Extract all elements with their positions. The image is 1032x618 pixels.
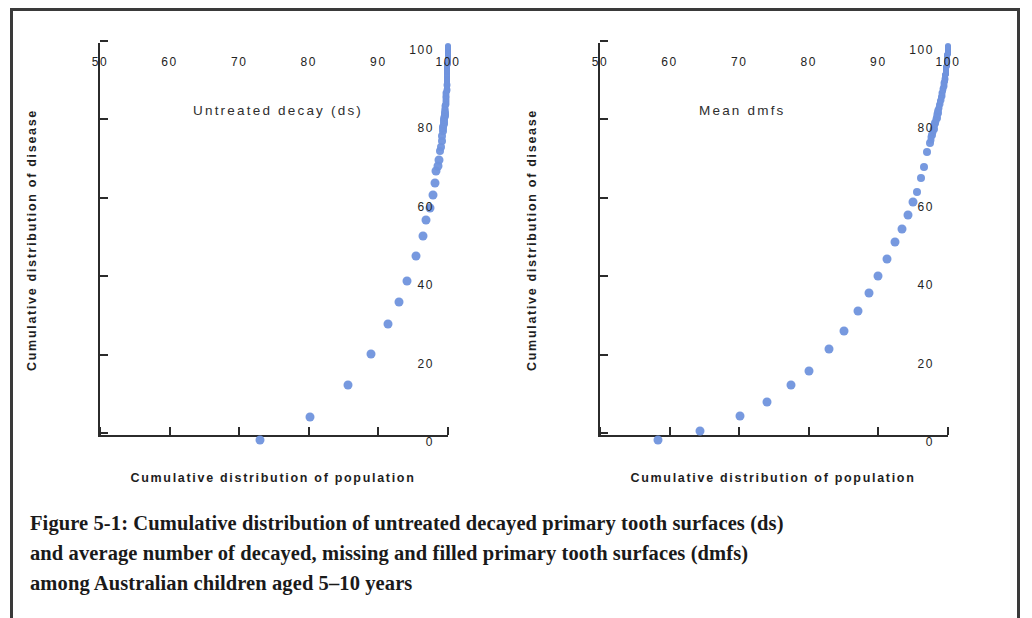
x-tick-label-left: 100 — [436, 55, 461, 69]
x-tick-label-left: 80 — [301, 55, 318, 69]
data-point — [923, 148, 931, 156]
x-tick-right — [669, 427, 671, 435]
chart-panel-mean-dmfs: Cumulative distribution of disease 50607… — [513, 11, 1013, 491]
x-tick-left — [308, 427, 310, 435]
data-point — [898, 225, 907, 234]
x-axis-title-left: Cumulative distribution of population — [98, 471, 448, 485]
data-point — [428, 190, 437, 199]
data-point — [763, 397, 772, 406]
y-axis-title-right: Cumulative distribution of disease — [523, 43, 541, 437]
x-tick-right — [738, 427, 740, 435]
panel-title-left: Untreated decay (ds) — [193, 103, 363, 118]
x-tick-label-left: 60 — [161, 55, 178, 69]
x-tick-right — [947, 427, 949, 435]
data-point — [891, 238, 900, 247]
x-tick-right — [808, 427, 810, 435]
data-point — [920, 163, 928, 171]
x-tick-label-right: 100 — [936, 55, 961, 69]
y-tick-left — [100, 40, 108, 42]
data-point — [654, 435, 663, 444]
data-point — [256, 435, 265, 444]
x-tick-label-left: 90 — [370, 55, 387, 69]
data-point — [735, 411, 744, 420]
data-point — [864, 288, 873, 297]
panel-title-right: Mean dmfs — [699, 103, 786, 118]
y-tick-left — [100, 432, 108, 434]
data-point — [394, 297, 403, 306]
y-tick-right — [600, 197, 608, 199]
y-tick-left — [100, 275, 108, 277]
data-point — [402, 276, 411, 285]
x-tick-left — [377, 427, 379, 435]
y-tick-left — [100, 118, 108, 120]
caption-line-3: among Australian children aged 5–10 year… — [30, 568, 990, 598]
caption-line-2: and average number of decayed, missing a… — [30, 538, 990, 568]
data-point — [422, 215, 431, 224]
data-point — [874, 272, 883, 281]
figure-plots-area: Cumulative distribution of disease 50607… — [13, 11, 1017, 491]
data-point — [695, 426, 704, 435]
data-point — [917, 174, 925, 182]
x-tick-left — [169, 427, 171, 435]
data-point — [945, 44, 951, 50]
y-tick-right — [600, 354, 608, 356]
y-tick-right — [600, 40, 608, 42]
data-point — [445, 44, 451, 50]
x-tick-label-left: 70 — [231, 55, 248, 69]
y-tick-left — [100, 197, 108, 199]
data-point — [411, 251, 420, 260]
x-tick-label-right: 80 — [801, 55, 818, 69]
x-tick-label-right: 60 — [661, 55, 678, 69]
x-tick-right — [877, 427, 879, 435]
chart-panel-untreated-decay: Cumulative distribution of disease 50607… — [13, 11, 513, 491]
x-tick-label-right: 90 — [870, 55, 887, 69]
data-point — [344, 381, 353, 390]
y-tick-right — [600, 118, 608, 120]
x-tick-label-right: 70 — [731, 55, 748, 69]
caption-line-1: Figure 5-1: Cumulative distribution of u… — [30, 508, 990, 538]
data-point — [804, 366, 813, 375]
data-point — [839, 327, 848, 336]
plot-area-right — [600, 43, 948, 435]
x-tick-left — [447, 427, 449, 435]
data-point — [824, 344, 833, 353]
figure-caption: Figure 5-1: Cumulative distribution of u… — [30, 508, 990, 598]
data-point — [913, 188, 921, 196]
x-tick-left — [238, 427, 240, 435]
y-tick-right — [600, 432, 608, 434]
x-tick-label-left: 50 — [92, 55, 109, 69]
x-axis-title-right: Cumulative distribution of population — [598, 471, 948, 485]
y-axis-title-left: Cumulative distribution of disease — [23, 43, 41, 437]
data-point — [909, 197, 918, 206]
data-point — [418, 232, 427, 241]
y-tick-left — [100, 354, 108, 356]
data-point — [306, 412, 315, 421]
plot-area-left — [100, 43, 448, 435]
y-tick-right — [600, 275, 608, 277]
data-point — [853, 306, 862, 315]
x-tick-label-right: 50 — [592, 55, 609, 69]
data-point — [434, 156, 443, 165]
data-point — [367, 350, 376, 359]
data-point — [430, 179, 439, 188]
data-point — [787, 381, 796, 390]
data-point — [384, 320, 393, 329]
data-point — [903, 211, 912, 220]
data-point — [883, 255, 892, 264]
